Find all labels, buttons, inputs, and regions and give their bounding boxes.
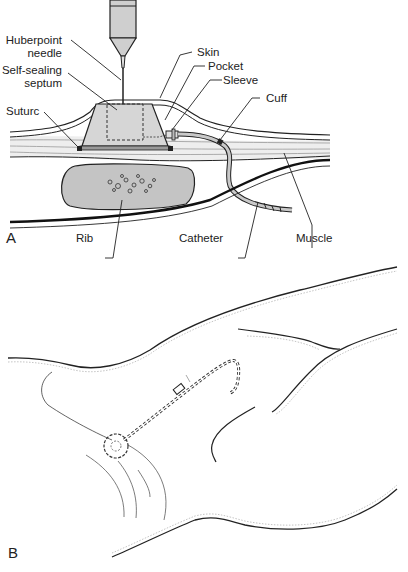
label-line: septum <box>0 77 62 90</box>
panel-a-letter: A <box>6 229 16 246</box>
label-skin: Skin <box>197 46 219 59</box>
panel-b-letter: B <box>8 544 18 561</box>
label-sleeve: Sleeve <box>223 74 258 87</box>
label-muscle: Muscle <box>296 232 332 245</box>
label-rib: Rib <box>76 232 93 245</box>
implanted-port-icon <box>104 434 128 458</box>
label-suture: Suturc <box>6 105 39 118</box>
body-contour-lower <box>112 489 397 557</box>
skin-line <box>10 100 330 135</box>
label-line: Self-sealing <box>0 64 62 77</box>
label-catheter: Catheter <box>179 232 223 245</box>
label-huberpoint-needle: Huberpoint needle <box>4 34 62 60</box>
label-cuff: Cuff <box>266 92 287 105</box>
tunneled-catheter <box>124 361 239 440</box>
label-self-sealing-septum: Self-sealing septum <box>0 64 62 90</box>
label-line: needle <box>4 47 62 60</box>
label-pocket: Pocket <box>208 60 243 73</box>
label-line: Huberpoint <box>4 34 62 47</box>
rib <box>62 164 195 210</box>
